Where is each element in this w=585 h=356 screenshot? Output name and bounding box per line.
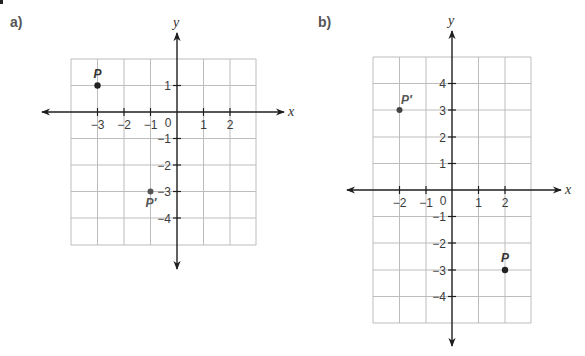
graph-a-xtick: −1: [144, 118, 158, 132]
graph-b-xtick: 2: [502, 196, 509, 210]
graph-b-xtick: −2: [393, 196, 407, 210]
graph-a-ytick: −1: [157, 132, 171, 146]
graph-a-ytick: −4: [157, 212, 171, 226]
graph-b-ytick: 1: [439, 157, 446, 171]
graph-b-ytick: 3: [439, 104, 446, 118]
graph-a-y-label: y: [171, 15, 180, 30]
graph-a-ytick: 1: [164, 79, 171, 93]
graph-a-point-p-label: P: [93, 67, 102, 81]
graph-b: x y −2 −1 0 1 2 4 3 2 1 −1 −2 −3 −4 P′ P: [347, 13, 572, 346]
graph-a-xtick: −3: [91, 118, 105, 132]
graph-b-ytick: −3: [432, 264, 446, 278]
graph-b-point-p-prime-label: P′: [401, 93, 413, 107]
graph-a-xtick: 2: [227, 118, 234, 132]
graph-a-point-p: [94, 82, 100, 88]
graph-a-xtick: 1: [200, 118, 207, 132]
graph-b-point-p-label: P: [501, 251, 510, 265]
coordinate-planes: x y −3 −2 −1 0 1 2 1 −1 −2 −3 −4 P P′: [0, 0, 585, 356]
graph-b-ytick: 2: [439, 131, 446, 145]
graph-b-point-p-prime: [397, 107, 403, 113]
graph-a-point-p-prime-label: P′: [146, 196, 158, 210]
graph-b-xtick: −1: [419, 196, 433, 210]
graph-b-ytick: −1: [432, 210, 446, 224]
graph-b-y-label: y: [446, 13, 455, 28]
graph-a-point-p-prime: [148, 189, 154, 195]
graph-b-ytick: 4: [439, 77, 446, 91]
graph-b-origin: 0: [440, 194, 447, 208]
graph-b-ytick: −2: [432, 237, 446, 251]
graph-a-x-label: x: [287, 104, 295, 119]
graph-b-x-label: x: [564, 182, 572, 197]
graph-b-point-p: [502, 267, 508, 273]
graph-a-xtick: −2: [117, 118, 131, 132]
graph-a: x y −3 −2 −1 0 1 2 1 −1 −2 −3 −4 P P′: [42, 15, 295, 269]
graph-b-ytick: −4: [432, 290, 446, 304]
graph-b-xtick: 1: [475, 196, 482, 210]
graph-a-ytick: −2: [157, 159, 171, 173]
graph-a-origin: 0: [165, 116, 172, 130]
graph-a-ytick: −3: [157, 185, 171, 199]
